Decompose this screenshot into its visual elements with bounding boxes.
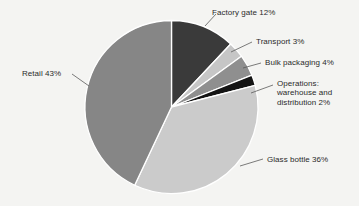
slice-label-glass-bottle: Glass bottle 36% bbox=[267, 155, 328, 164]
slice-label-bulk-packaging: Bulk packaging 4% bbox=[265, 58, 334, 67]
pie-chart: Factory gate 12% Transport 3% Bulk packa… bbox=[0, 0, 359, 206]
slice-label-factory-gate: Factory gate 12% bbox=[212, 8, 276, 17]
slice-label-operations: Operations: warehouse and distribution 2… bbox=[277, 79, 341, 107]
slice-label-retail: Retail 43% bbox=[22, 69, 61, 78]
pie-slice-group bbox=[85, 21, 258, 194]
leader-line-glass-bottle bbox=[240, 159, 263, 166]
leader-line-retail bbox=[72, 74, 89, 86]
slice-label-transport: Transport 3% bbox=[256, 37, 304, 46]
